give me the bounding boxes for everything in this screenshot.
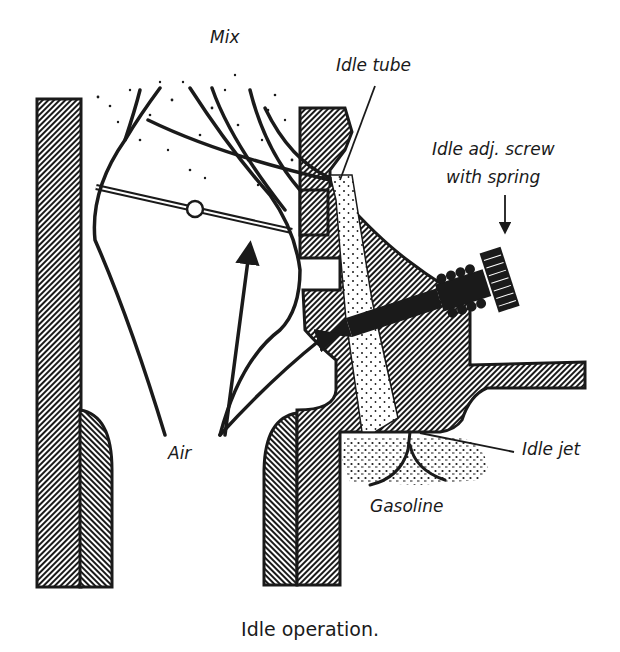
label-gasoline: Gasoline bbox=[370, 497, 444, 517]
carburetor-idle-diagram bbox=[0, 0, 620, 652]
right-lower-wall bbox=[264, 413, 297, 585]
label-air: Air bbox=[168, 444, 191, 464]
label-idle-adj-screw-line1: Idle adj. screw bbox=[432, 140, 555, 160]
label-idle-jet: Idle jet bbox=[522, 440, 580, 460]
figure-caption: Idle operation. bbox=[0, 618, 620, 640]
label-idle-adj-screw-line2: with spring bbox=[446, 168, 540, 188]
left-wall bbox=[37, 99, 112, 587]
label-idle-tube: Idle tube bbox=[336, 56, 411, 76]
label-mix: Mix bbox=[210, 28, 239, 48]
throttle-plate bbox=[96, 187, 292, 231]
